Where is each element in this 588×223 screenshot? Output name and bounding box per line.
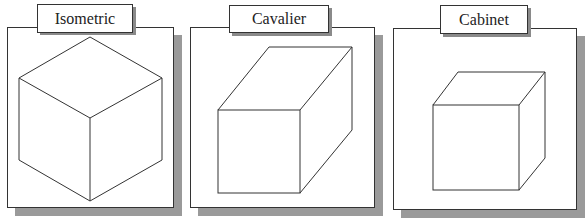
isometric-cube: [19, 37, 162, 201]
cavalier-cube: [218, 47, 352, 193]
cube-drawings: [0, 0, 588, 223]
cabinet-cube: [433, 72, 545, 190]
